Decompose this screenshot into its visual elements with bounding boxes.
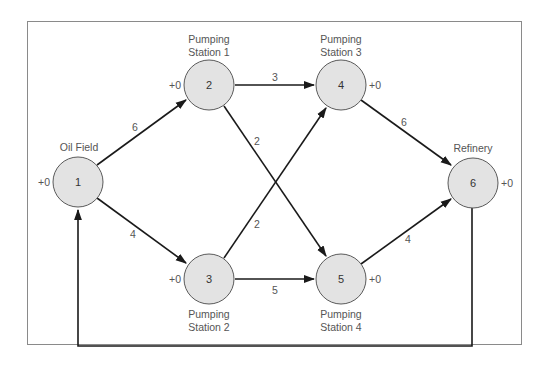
node-4-pumping-station-3: Pumping Station 3 4 +0: [316, 33, 381, 110]
node-3-pumping-station-2: 3 +0 Pumping Station 2: [169, 254, 234, 333]
node-5-offset: +0: [369, 273, 381, 285]
edge-label-3-4: 2: [254, 218, 260, 230]
edge-6-1-return: [78, 208, 472, 346]
edge-4-6: [361, 100, 451, 165]
node-4-name-line1: Pumping: [320, 33, 362, 45]
edge-1-3: [97, 198, 186, 263]
edge-label-5-6: 4: [405, 233, 411, 245]
node-4-name-line2: Station 3: [320, 46, 362, 58]
node-2-pumping-station-1: Pumping Station 1 2 +0: [169, 33, 234, 110]
edge-label-1-3: 4: [130, 228, 136, 240]
node-6-refinery: Refinery 6 +0: [448, 142, 513, 208]
node-5-number: 5: [338, 273, 344, 285]
node-2-offset: +0: [169, 79, 181, 91]
node-6-offset: +0: [501, 177, 513, 189]
node-1-number: 1: [75, 176, 81, 188]
node-2-name-line1: Pumping: [188, 33, 230, 45]
edge-2-5: [224, 106, 326, 256]
edge-label-2-5: 2: [254, 135, 260, 147]
edge-label-1-2: 6: [132, 121, 138, 133]
edge-label-4-6: 6: [401, 116, 407, 128]
edge-label-2-4: 3: [272, 71, 278, 83]
node-3-name-line1: Pumping: [188, 308, 230, 320]
edge-5-6: [361, 199, 451, 264]
node-6-number: 6: [470, 177, 476, 189]
edge-1-2: [97, 100, 186, 165]
node-3-offset: +0: [169, 273, 181, 285]
node-5-name-line1: Pumping: [320, 308, 362, 320]
node-4-number: 4: [338, 79, 344, 91]
node-2-name-line2: Station 1: [188, 46, 230, 58]
node-6-name: Refinery: [453, 142, 493, 154]
node-1-name: Oil Field: [60, 141, 99, 153]
node-4-offset: +0: [369, 79, 381, 91]
node-3-number: 3: [206, 273, 212, 285]
node-1-offset: +0: [38, 176, 50, 188]
node-2-number: 2: [206, 79, 212, 91]
edge-label-3-5: 5: [272, 284, 278, 296]
node-1-oil-field: Oil Field 1 +0: [38, 141, 103, 207]
edge-3-4: [224, 108, 326, 258]
flow-network-diagram: 6 4 3 2 2 5 6 4 Oil Field 1 +0 Pumping S…: [0, 0, 545, 379]
node-5-name-line2: Station 4: [320, 321, 362, 333]
node-3-name-line2: Station 2: [188, 321, 230, 333]
node-5-pumping-station-4: 5 +0 Pumping Station 4: [316, 254, 381, 333]
